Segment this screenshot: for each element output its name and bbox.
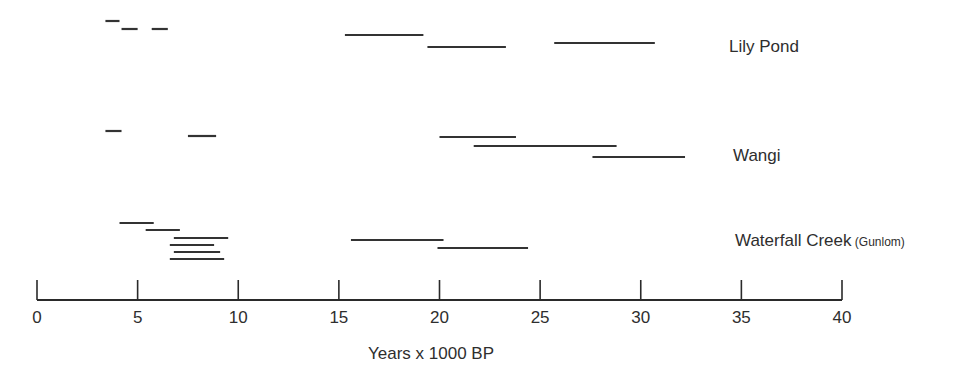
site-label: Waterfall Creek (Gunlom) xyxy=(735,231,905,251)
tick-label: 35 xyxy=(732,308,751,328)
tick-label: 20 xyxy=(430,308,449,328)
tick-label: 10 xyxy=(229,308,248,328)
site-name: Waterfall Creek xyxy=(735,231,852,250)
x-axis xyxy=(37,280,842,300)
tick-label: 25 xyxy=(531,308,550,328)
tick-label: 5 xyxy=(133,308,142,328)
chart-canvas xyxy=(0,0,974,382)
x-axis-label: Years x 1000 BP xyxy=(368,344,494,364)
tick-label: 0 xyxy=(32,308,41,328)
site-name: Wangi xyxy=(733,146,781,165)
site-subname: (Gunlom) xyxy=(852,235,905,249)
site-label: Lily Pond xyxy=(729,37,799,57)
range-bars xyxy=(105,21,685,259)
site-label: Wangi xyxy=(733,146,781,166)
site-name: Lily Pond xyxy=(729,37,799,56)
tick-label: 40 xyxy=(833,308,852,328)
tick-label: 30 xyxy=(631,308,650,328)
tick-label: 15 xyxy=(329,308,348,328)
